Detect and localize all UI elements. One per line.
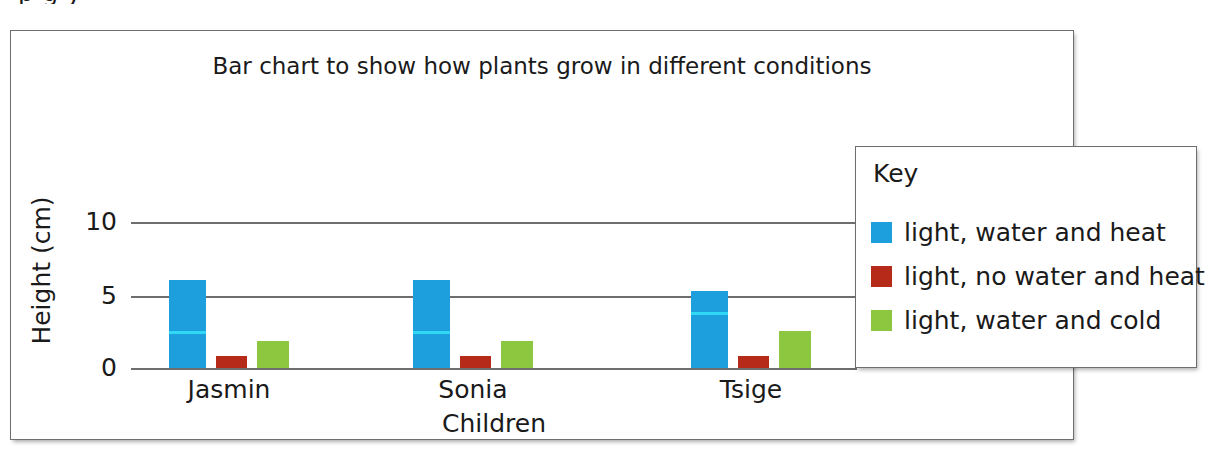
legend-title: Key xyxy=(873,159,918,188)
bar-highlight-line xyxy=(413,331,450,334)
bar-sonia-light-water-heat xyxy=(413,280,450,368)
x-tick-label-jasmin: Jasmin xyxy=(129,375,329,404)
legend-item-light-water-heat: light, water and heat xyxy=(871,217,1166,247)
y-tick-label-0: 0 xyxy=(71,353,117,382)
legend-label-light-water-heat: light, water and heat xyxy=(904,218,1166,247)
legend-swatch-green-icon xyxy=(871,310,892,331)
legend-key-box: Key light, water and heat light, no wate… xyxy=(855,146,1197,368)
legend-item-light-water-cold: light, water and cold xyxy=(871,305,1161,335)
gridline-10 xyxy=(131,222,857,224)
clipped-heading-above-figure: p g y xyxy=(0,0,1210,4)
y-tick-label-5: 5 xyxy=(71,281,117,310)
bar-sonia-light-water-cold xyxy=(501,341,533,368)
x-axis-line xyxy=(131,368,857,370)
legend-item-light-no-water-heat: light, no water and heat xyxy=(871,261,1205,291)
bar-highlight-line xyxy=(169,331,206,334)
x-axis-label: Children xyxy=(131,409,857,438)
y-axis-label: Height (cm) xyxy=(27,181,56,361)
legend-label-light-no-water-heat: light, no water and heat xyxy=(904,262,1205,291)
bar-sonia-light-no-water-heat xyxy=(460,356,491,368)
bar-jasmin-light-no-water-heat xyxy=(216,356,247,368)
bar-jasmin-light-water-heat xyxy=(169,280,206,368)
x-tick-label-tsige: Tsige xyxy=(651,375,851,404)
gridline-5 xyxy=(131,296,857,298)
bar-tsige-light-water-cold xyxy=(779,331,811,368)
bar-highlight-line xyxy=(691,312,728,315)
x-tick-label-sonia: Sonia xyxy=(373,375,573,404)
legend-swatch-blue-icon xyxy=(871,222,892,243)
bar-tsige-light-water-heat xyxy=(691,291,728,368)
legend-label-light-water-cold: light, water and cold xyxy=(904,306,1161,335)
bar-tsige-light-no-water-heat xyxy=(738,356,769,368)
legend-swatch-red-icon xyxy=(871,266,892,287)
y-tick-label-10: 10 xyxy=(71,207,117,236)
bar-jasmin-light-water-cold xyxy=(257,341,289,368)
